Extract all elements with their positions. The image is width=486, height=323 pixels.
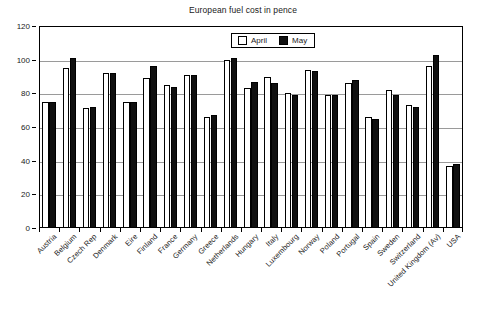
bar-may [332,95,338,228]
legend-swatch-april-icon [238,36,247,45]
bar-april [345,83,351,228]
bar-may [372,119,378,228]
bar-group [241,26,261,228]
bar-group [201,26,221,228]
bar-group [79,26,99,228]
bar-may [211,115,217,228]
bar-group [281,26,301,228]
bar-group [443,26,463,228]
bar-may [292,95,298,228]
y-tick-label: 80 [21,89,30,98]
bar-april [184,75,190,228]
bar-april [365,117,371,228]
bar-group [342,26,362,228]
x-tick-label: Norway [296,232,321,257]
bar-april [426,66,432,228]
y-tick-label: 20 [21,190,30,199]
bar-group [160,26,180,228]
bar-april [204,117,210,228]
bar-may [231,58,237,228]
bar-group [140,26,160,228]
bar-group [301,26,321,228]
bar-may [70,58,76,228]
y-axis: 020406080100120 [0,26,36,228]
bar-may [352,80,358,228]
bar-april [325,95,331,228]
bar-may [312,71,318,228]
bar-chart: European fuel cost in pence 020406080100… [0,0,486,323]
bar-group [362,26,382,228]
bar-april [406,105,412,228]
y-tick-mark [32,161,36,162]
bar-group [39,26,59,228]
y-tick-label: 40 [21,156,30,165]
x-tick-label: Finland [135,232,159,256]
y-tick-label: 0 [26,224,30,233]
bar-april [224,60,230,228]
bar-april [164,85,170,228]
bar-group [221,26,241,228]
y-tick-label: 60 [21,123,30,132]
bar-april [285,93,291,228]
legend-swatch-may-icon [279,36,288,45]
bar-may [110,73,116,228]
bar-april [446,166,452,228]
bar-may [130,102,136,228]
y-tick-label: 100 [17,55,30,64]
y-tick-label: 120 [17,22,30,31]
chart-title: European fuel cost in pence [0,5,486,15]
legend-label-may: May [292,36,307,45]
bar-april [244,88,250,228]
y-tick-mark [32,60,36,61]
bar-group [423,26,443,228]
legend-entry-april: April [238,36,267,45]
y-tick-mark [32,228,36,229]
bar-april [83,108,89,228]
bar-april [386,90,392,228]
bars-layer [39,26,463,228]
bar-group [59,26,79,228]
x-tick-label: USA [445,232,462,249]
bar-group [261,26,281,228]
bar-may [150,66,156,228]
bar-group [100,26,120,228]
bar-may [191,75,197,228]
bar-april [42,102,48,228]
y-tick-mark [32,127,36,128]
bar-may [49,102,55,228]
bar-may [413,107,419,228]
bar-group [322,26,342,228]
bar-april [123,102,129,228]
bar-may [90,107,96,228]
chart-legend: April May [231,33,315,48]
bar-may [393,95,399,228]
bar-group [120,26,140,228]
x-axis-labels: AustriaBelgiumCzech RepDenmarkEireFinlan… [39,232,463,322]
bar-may [271,83,277,228]
bar-may [171,87,177,228]
bar-group [180,26,200,228]
x-tick-label: Eire [123,232,139,248]
legend-label-april: April [251,36,267,45]
y-tick-mark [32,93,36,94]
bar-may [453,164,459,228]
bar-april [103,73,109,228]
legend-entry-may: May [279,36,307,45]
y-tick-mark [32,26,36,27]
bar-group [402,26,422,228]
bar-april [143,78,149,228]
y-tick-mark [32,194,36,195]
bar-may [433,55,439,228]
bar-may [251,82,257,228]
bar-group [382,26,402,228]
bar-april [63,68,69,228]
bar-april [305,70,311,228]
bar-april [264,77,270,229]
